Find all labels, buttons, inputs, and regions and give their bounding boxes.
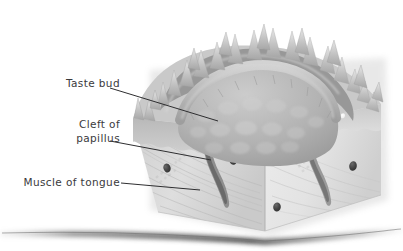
label-muscle-of-tongue: Muscle of tongue [2, 176, 120, 190]
taste-bud [341, 113, 345, 119]
label-taste-bud: Taste bud [8, 77, 120, 91]
label-cleft-of-papillus: Cleft ofpapillus [8, 118, 120, 145]
label-cleft-line2: papillus [76, 132, 120, 144]
label-cleft-line1: Cleft of [79, 118, 120, 130]
label-taste-bud-text: Taste bud [66, 77, 120, 89]
label-muscle-of-tongue-text: Muscle of tongue [23, 176, 120, 188]
